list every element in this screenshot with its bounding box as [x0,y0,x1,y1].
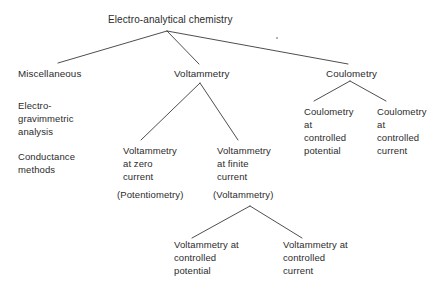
line-voltammetry-to-finite-current [200,83,238,140]
node-coulometry-controlled-potential-line4: potential [304,144,341,157]
line-coulometry-to-controlled-potential [314,81,350,101]
node-voltammetry-zero-current-line3: current [123,170,153,183]
line-finite-current-to-controlled-current [250,206,302,238]
node-coulometry-controlled-current-line4: current [377,144,407,157]
node-coulometry-controlled-current-line3: controlled [377,131,419,144]
node-coulometry-controlled-potential-line2: at [304,118,312,131]
electroanalytical-chemistry-tree-diagram: Electro-analytical chemistry Miscellaneo… [0,0,446,289]
node-voltammetry-paren: (Voltammetry) [213,188,273,201]
node-electrogravimmetric-analysis-line1: Electro- [18,99,52,112]
node-electrogravimmetric-analysis-line2: gravimmetric [18,112,74,125]
line-finite-current-to-controlled-potential [192,206,250,238]
node-coulometry: Coulometry [326,67,377,80]
scan-artifact-speck [276,37,278,39]
line-voltammetry-to-zero-current [141,83,200,140]
node-conductance-methods-line1: Conductance [18,150,75,163]
node-coulometry-controlled-potential-line3: controlled [304,131,346,144]
node-coulometry-controlled-current-line2: at [377,118,385,131]
node-conductance-methods-line2: methods [18,163,55,176]
node-voltammetry-controlled-potential-line1: Voltammetry at [174,238,239,251]
node-voltammetry-finite-current-line3: current [217,170,247,183]
line-coulometry-to-controlled-current [350,81,386,101]
node-voltammetry-zero-current-line1: Voltammetry [123,144,177,157]
node-voltammetry-controlled-current-line1: Voltammetry at [283,238,348,251]
node-voltammetry-controlled-potential-line3: potential [174,264,211,277]
node-voltammetry-finite-current-line2: at finite [217,157,249,170]
node-voltammetry-controlled-potential-line2: controlled [174,251,216,264]
node-potentiometry-paren: (Potentiometry) [117,188,183,201]
node-voltammetry-controlled-current-line3: current [283,264,313,277]
node-coulometry-controlled-current-line1: Coulometry [377,105,427,118]
node-voltammetry-finite-current-line1: Voltammetry [217,144,271,157]
node-voltammetry-zero-current-line2: at zero [123,157,153,170]
node-electrogravimmetric-analysis-line3: analysis [18,125,53,138]
line-root-to-miscellaneous [58,31,167,63]
node-miscellaneous: Miscellaneous [18,67,81,80]
node-coulometry-controlled-potential-line1: Coulometry [304,105,354,118]
node-voltammetry: Voltammetry [174,67,230,80]
node-voltammetry-controlled-current-line2: controlled [283,251,325,264]
node-root-electroanalytical-chemistry: Electro-analytical chemistry [108,13,233,26]
